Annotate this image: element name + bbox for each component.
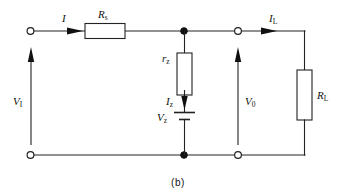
input-current-arrow (67, 28, 83, 35)
label-output-voltage: V0 (245, 95, 256, 109)
label-series-resistor: Rs (97, 8, 108, 22)
label-load-current: IL (268, 12, 278, 26)
zener-resistance-body (177, 53, 192, 95)
circuit-diagram: VI Rs I rz Iz Vz V0 IL RL (b) (0, 0, 343, 194)
label-zener-voltage: Vz (157, 111, 168, 125)
output-terminal-bottom (235, 152, 242, 159)
load-current-arrow (261, 28, 277, 35)
circuit-figure: VI Rs I rz Iz Vz V0 IL RL (b) (0, 0, 343, 194)
label-input-voltage: VI (13, 95, 23, 109)
figure-caption: (b) (171, 177, 185, 188)
input-terminal-bottom (27, 152, 34, 159)
series-resistor-body (85, 24, 125, 39)
input-voltage-arrow (28, 47, 34, 145)
label-zener-current: Iz (165, 95, 174, 109)
load-resistor-body (297, 70, 312, 120)
output-voltage-arrow (235, 47, 241, 145)
label-zener-resistance: rz (162, 52, 170, 66)
input-terminal-top (27, 28, 34, 35)
label-input-current: I (61, 12, 67, 24)
output-terminal-top (235, 28, 242, 35)
label-load-resistor: RL (316, 89, 329, 103)
